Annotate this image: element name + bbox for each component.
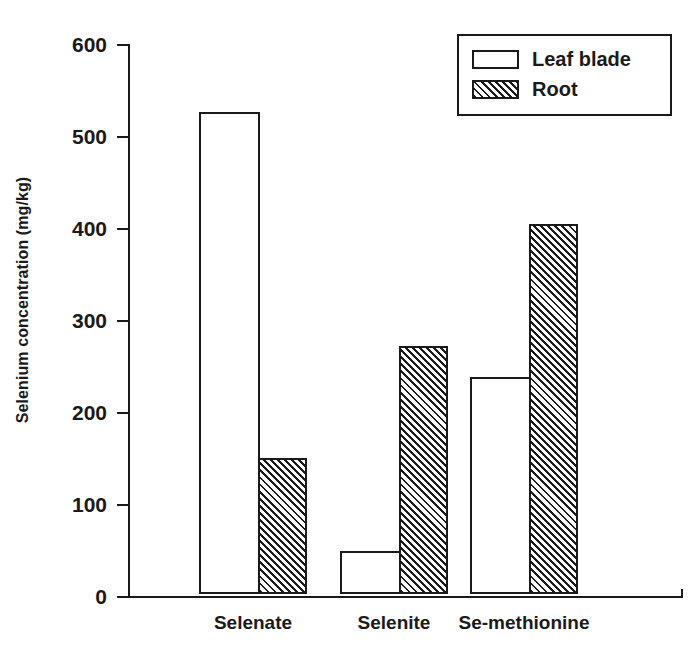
legend-label-root: Root [532, 78, 578, 101]
legend-swatch-leaf-blade-icon [472, 50, 519, 69]
x-axis-line [128, 596, 683, 598]
y-axis-tick-label: 0 [95, 585, 107, 609]
bar-leaf-blade-se-methionine [470, 377, 531, 594]
bar-root-se-methionine [529, 224, 578, 594]
x-axis-end-tick [681, 589, 683, 597]
y-axis-tick: 400 [117, 228, 128, 230]
y-axis-tick-label: 500 [72, 125, 107, 149]
y-axis-tick: 100 [117, 504, 128, 506]
x-axis-label-selenite: Selenite [358, 612, 431, 634]
y-axis-tick: 600 [117, 44, 128, 46]
y-axis-tick-label: 300 [72, 309, 107, 333]
legend-label-leaf-blade: Leaf blade [532, 48, 631, 71]
y-axis-tick: 300 [117, 320, 128, 322]
y-axis-title: Selenium concentration (mg/kg) [0, 0, 46, 600]
plot-area: 0100200300400500600 SelenateSeleniteSe-m… [128, 44, 683, 596]
y-axis-tick-label: 600 [72, 33, 107, 57]
y-axis-tick-label: 400 [72, 217, 107, 241]
y-axis-line [128, 44, 130, 597]
bar-leaf-blade-selenate [199, 112, 260, 594]
x-axis-label-selenate: Selenate [214, 612, 292, 634]
legend-item-leaf-blade: Leaf blade [472, 44, 670, 74]
bar-root-selenite [399, 346, 448, 594]
bar-chart-figure: Selenium concentration (mg/kg) 010020030… [0, 0, 690, 669]
y-axis-tick-label: 200 [72, 401, 107, 425]
y-axis-title-text: Selenium concentration (mg/kg) [14, 177, 32, 424]
chart-legend: Leaf blade Root [457, 34, 672, 116]
legend-item-root: Root [472, 74, 670, 104]
bar-root-selenate [258, 458, 307, 594]
y-axis-tick: 200 [117, 412, 128, 414]
legend-swatch-root-icon [472, 80, 519, 99]
bar-leaf-blade-selenite [340, 551, 401, 594]
x-axis-label-se-methionine: Se-methionine [459, 612, 590, 634]
y-axis-tick: 0 [117, 596, 128, 598]
y-axis-tick: 500 [117, 136, 128, 138]
y-axis-tick-label: 100 [72, 493, 107, 517]
